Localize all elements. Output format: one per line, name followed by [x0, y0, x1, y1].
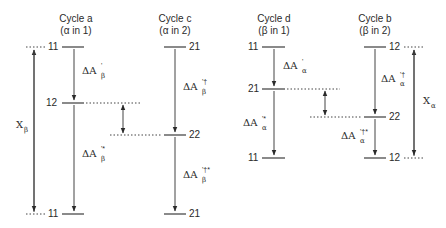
- level-label-21-top: 21: [189, 41, 201, 52]
- svg-text:ΔA: ΔA: [183, 81, 198, 92]
- transition-label-dA-beta-prime-dagger-star: ΔA β '†*: [183, 166, 210, 184]
- level-label-11-bottom: 11: [248, 152, 259, 163]
- x-beta-label: X: [16, 119, 24, 130]
- transition-label-dA-beta-prime-star: ΔA β '*: [82, 145, 105, 163]
- cycle-c: Cycle c (α in 2) 21 22 21 ΔA β '† ΔA β '…: [110, 13, 210, 219]
- svg-text:α: α: [360, 137, 365, 145]
- level-label-22: 22: [389, 111, 401, 122]
- thermodynamic-cycle-diagram: Cycle a (α in 1) 11 12 11 ΔA β ' ΔA β '*: [0, 0, 446, 228]
- svg-text:ΔA: ΔA: [381, 73, 396, 84]
- cycle-c-subtitle: (α in 2): [159, 25, 190, 36]
- svg-text:ΔA: ΔA: [82, 148, 97, 159]
- transition-label-dA-alpha-prime-dagger: ΔA α '†: [381, 71, 405, 88]
- svg-text:α: α: [302, 67, 307, 75]
- cycle-b-title: Cycle b: [358, 13, 392, 24]
- svg-text:ΔA: ΔA: [82, 65, 97, 76]
- transition-label-dA-alpha-prime-dagger-star: ΔA α '†*: [341, 128, 368, 145]
- cycle-d-subtitle: (β in 1): [258, 25, 289, 36]
- cycle-d-title: Cycle d: [257, 13, 290, 24]
- transition-label-dA-beta-prime-dagger: ΔA β '†: [183, 78, 207, 96]
- transition-label-dA-beta-prime: ΔA β ': [82, 62, 105, 80]
- x-alpha-label: X: [423, 95, 431, 106]
- cycle-b: Cycle b (β in 2) 12 22 12 ΔA α '† ΔA α '…: [310, 13, 425, 163]
- level-label-22: 22: [189, 129, 201, 140]
- x-beta-subscript: β: [24, 126, 28, 134]
- level-label-11-top: 11: [248, 41, 259, 52]
- svg-text:β: β: [101, 72, 105, 80]
- svg-text:β: β: [202, 176, 206, 184]
- level-label-11-top: 11: [48, 41, 59, 52]
- svg-text:α: α: [400, 80, 405, 88]
- svg-text:ΔA: ΔA: [243, 117, 258, 128]
- cycle-c-title: Cycle c: [159, 13, 192, 24]
- svg-text:'†: '†: [202, 78, 207, 85]
- svg-text:ΔA: ΔA: [183, 169, 198, 180]
- cycle-d: Cycle d (β in 1) 11 21 11 ΔA α ' ΔA α '*: [243, 13, 340, 163]
- svg-text:'*: '*: [101, 145, 105, 152]
- x-alpha-arrow: X α: [414, 50, 436, 156]
- svg-text:'†: '†: [400, 71, 405, 78]
- cycle-b-subtitle: (β in 2): [359, 25, 390, 36]
- x-beta-arrow: X β: [16, 50, 34, 212]
- svg-text:β: β: [101, 155, 105, 163]
- level-label-12: 12: [46, 97, 58, 108]
- cycle-a-title: Cycle a: [59, 13, 93, 24]
- svg-text:ΔA: ΔA: [283, 60, 298, 71]
- level-label-21: 21: [248, 83, 260, 94]
- svg-text:'†*: '†*: [202, 166, 210, 173]
- svg-text:β: β: [202, 88, 206, 96]
- transition-label-dA-alpha-prime: ΔA α ': [283, 58, 307, 75]
- level-label-12-top: 12: [389, 41, 401, 52]
- level-label-21-bottom: 21: [189, 208, 201, 219]
- svg-text:'*: '*: [262, 115, 266, 122]
- x-alpha-subscript: α: [431, 102, 436, 110]
- level-label-11-bottom: 11: [48, 208, 59, 219]
- level-label-12-bottom: 12: [389, 152, 401, 163]
- svg-text:': ': [302, 58, 303, 65]
- svg-text:ΔA: ΔA: [341, 130, 356, 141]
- cycle-a-subtitle: (α in 1): [60, 25, 91, 36]
- svg-text:α: α: [262, 124, 267, 132]
- svg-text:'†*: '†*: [360, 128, 368, 135]
- transition-label-dA-alpha-prime-star: ΔA α '*: [243, 115, 267, 132]
- svg-text:': ': [101, 62, 102, 69]
